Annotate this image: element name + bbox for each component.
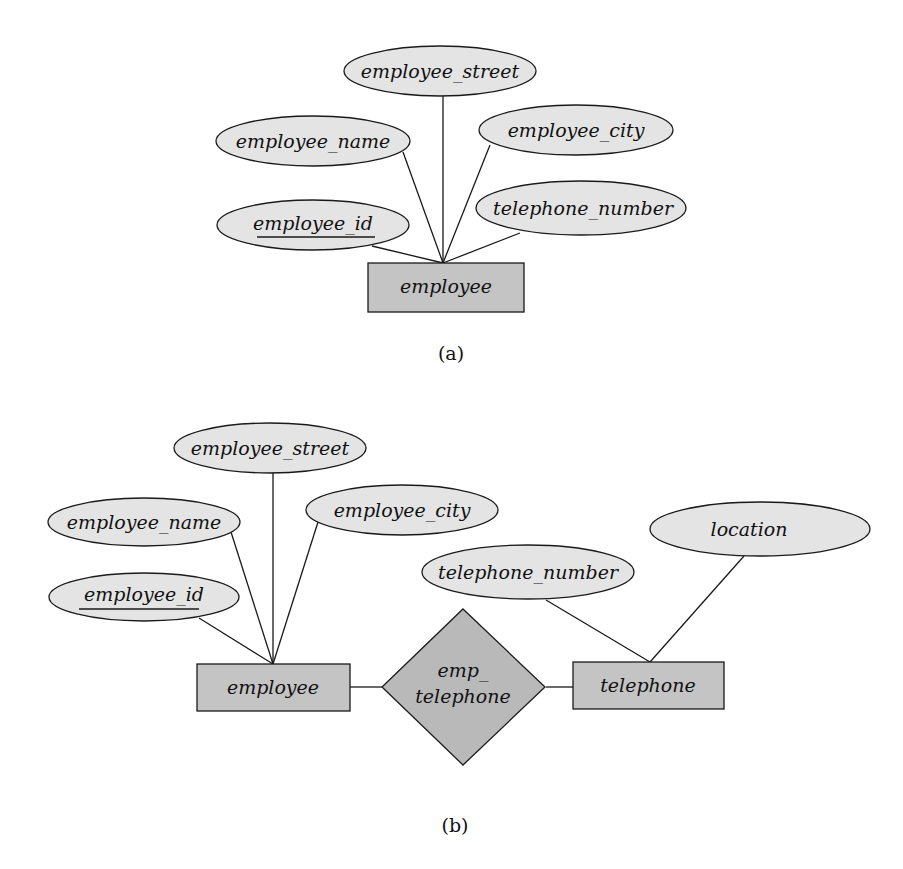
edge-a-id [372, 246, 443, 263]
attribute-employee-city[interactable]: employee_city [479, 105, 673, 155]
edge-b-location [650, 556, 744, 662]
entity-label: employee [227, 676, 319, 698]
attribute-telephone-number[interactable]: telephone_number [476, 181, 686, 235]
relationship-emp-telephone[interactable]: emp_ telephone [382, 609, 545, 765]
attribute-employee-id[interactable]: employee_id [217, 200, 409, 250]
attribute-employee-city-b[interactable]: employee_city [306, 485, 498, 535]
edge-b-city [273, 522, 318, 664]
attribute-label: employee_city [508, 119, 645, 142]
attribute-label: employee_street [191, 437, 350, 460]
attribute-location[interactable]: location [650, 502, 870, 556]
attribute-telephone-number-b[interactable]: telephone_number [422, 545, 634, 599]
attribute-employee-name[interactable]: employee_name [216, 116, 410, 166]
attribute-label: telephone_number [493, 197, 675, 220]
attribute-label: employee_id [84, 583, 204, 606]
attribute-label: employee_city [334, 499, 471, 522]
relationship-label-line2: telephone [415, 685, 511, 707]
entity-label: telephone [600, 674, 696, 696]
entity-label: employee [400, 275, 492, 297]
entity-employee[interactable]: employee [368, 263, 524, 312]
attribute-label: employee_name [67, 511, 222, 534]
er-diagram-canvas: employee_street employee_name employee_c… [0, 0, 903, 869]
attribute-label: employee_id [253, 212, 373, 235]
attribute-label: location [711, 518, 788, 540]
caption-a: (a) [438, 342, 464, 364]
attribute-label: employee_name [236, 130, 391, 153]
edge-b-id [199, 618, 273, 664]
edge-b-telephone-number [546, 600, 650, 662]
attribute-employee-name-b[interactable]: employee_name [48, 498, 240, 546]
diagram-a: employee_street employee_name employee_c… [216, 46, 686, 364]
edge-a-name [403, 152, 443, 263]
attribute-employee-street[interactable]: employee_street [344, 46, 536, 96]
attribute-label: telephone_number [438, 561, 620, 584]
attribute-employee-id-b[interactable]: employee_id [49, 573, 239, 621]
caption-b: (b) [442, 814, 469, 836]
diagram-b: employee_street employee_name employee_c… [48, 423, 870, 836]
entity-telephone[interactable]: telephone [573, 662, 724, 709]
attribute-label: employee_street [361, 60, 520, 83]
entity-employee-b[interactable]: employee [197, 664, 350, 711]
relationship-label-line1: emp_ [438, 659, 489, 682]
edge-a-telephone [443, 233, 520, 263]
attribute-employee-street-b[interactable]: employee_street [174, 423, 366, 473]
